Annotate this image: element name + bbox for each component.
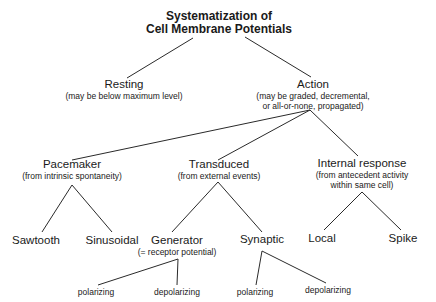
synaptic-label: Synaptic	[240, 233, 284, 245]
edge-title-action	[245, 37, 311, 77]
node-generator: Generator (= receptor potential)	[138, 234, 217, 257]
gen-polarizing-label: polarizing	[78, 287, 114, 297]
edge-title-resting	[127, 38, 193, 78]
edge-pacemaker-sinusoidal	[72, 185, 112, 232]
edge-transduced-synaptic	[218, 182, 262, 232]
node-action: Action (may be graded, decremental, or a…	[256, 78, 369, 111]
action-note-1: (may be graded, decremental,	[256, 91, 369, 101]
action-label: Action	[297, 78, 329, 90]
generator-note: (= receptor potential)	[138, 247, 217, 257]
syn-polarizing-label: polarizing	[237, 287, 273, 297]
title-line-1: Systematization of	[166, 9, 272, 23]
syn-depolarizing-label: depolarizing	[305, 285, 351, 295]
resting-note: (may be below maximum level)	[65, 91, 182, 101]
edge-action-internal	[310, 110, 358, 156]
node-resting: Resting (may be below maximum level)	[65, 78, 182, 101]
internal-note-2: within same cell)	[316, 180, 409, 190]
node-synaptic-depolarizing: depolarizing	[305, 285, 351, 295]
node-synaptic-polarizing: polarizing	[237, 287, 273, 297]
node-internal-response: Internal response (from antecedent activ…	[316, 157, 409, 190]
edge-generator-polarizing	[98, 259, 178, 285]
node-local: Local	[308, 232, 336, 245]
edge-synaptic-depolarizing	[262, 251, 326, 283]
edge-action-transduced	[218, 110, 310, 160]
edge-transduced-generator	[172, 182, 218, 232]
sinusoidal-label: Sinusoidal	[85, 234, 138, 246]
generator-label: Generator	[151, 234, 203, 246]
node-sinusoidal: Sinusoidal	[85, 234, 138, 247]
diagram-title: Systematization of Cell Membrane Potenti…	[146, 10, 292, 36]
edge-generator-depolarizing	[177, 259, 178, 285]
sawtooth-label: Sawtooth	[12, 234, 60, 246]
edge-action-pacemaker	[72, 110, 310, 160]
node-generator-depolarizing: depolarizing	[154, 287, 200, 297]
node-synaptic: Synaptic	[240, 233, 284, 246]
pacemaker-note: (from intrinsic spontaneity)	[22, 171, 122, 181]
tree-edges	[0, 0, 436, 302]
edge-pacemaker-sawtooth	[42, 185, 72, 232]
edge-internal-spike	[362, 192, 401, 230]
local-label: Local	[308, 232, 336, 244]
action-note-2: or all-or-none, propagated)	[256, 101, 369, 111]
resting-label: Resting	[105, 78, 144, 90]
internal-note-1: (from antecedent activity	[316, 170, 409, 180]
spike-label: Spike	[389, 232, 418, 244]
transduced-note: (from external events)	[178, 171, 261, 181]
gen-depolarizing-label: depolarizing	[154, 287, 200, 297]
internal-label: Internal response	[318, 157, 407, 169]
node-generator-polarizing: polarizing	[78, 287, 114, 297]
node-sawtooth: Sawtooth	[12, 234, 60, 247]
transduced-label: Transduced	[189, 158, 249, 170]
pacemaker-label: Pacemaker	[43, 158, 101, 170]
node-pacemaker: Pacemaker (from intrinsic spontaneity)	[22, 158, 122, 181]
title-line-2: Cell Membrane Potentials	[146, 22, 292, 36]
edge-synaptic-polarizing	[256, 251, 262, 285]
membrane-potentials-diagram: Systematization of Cell Membrane Potenti…	[0, 0, 436, 302]
edge-internal-local	[324, 192, 362, 230]
node-transduced: Transduced (from external events)	[178, 158, 261, 181]
node-spike: Spike	[389, 232, 418, 245]
